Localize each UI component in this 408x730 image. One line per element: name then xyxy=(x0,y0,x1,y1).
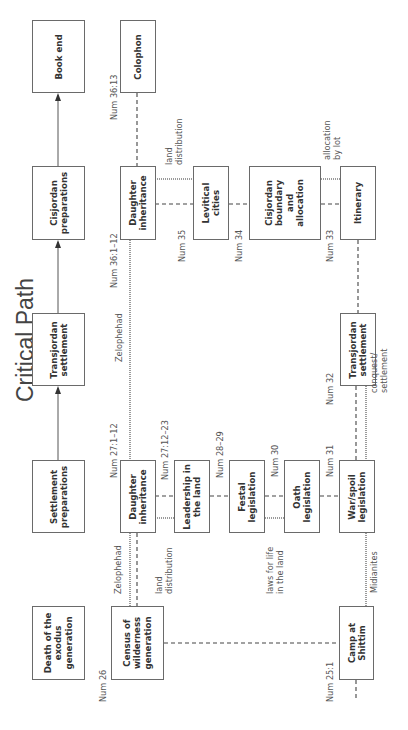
annotation-land-distribution-top: land distribution xyxy=(164,118,184,165)
node-daughter-inheritance-27: Daughter inheritance xyxy=(120,460,156,533)
node-camp-shittim: Camp at Shittim xyxy=(339,606,374,680)
node-oath-legislation: Oath legislation xyxy=(284,460,320,533)
node-itinerary: Itinerary xyxy=(340,166,376,240)
node-settlement-preparations: Settlement preparations xyxy=(32,460,85,533)
node-book-end: Book end xyxy=(32,20,85,93)
node-war-spoil-legislation: War/spoil legislation xyxy=(339,460,375,533)
ref-num-36-1-12: Num 36:1–12 xyxy=(109,233,119,288)
annotation-zelophehad-bottom: Zelophehad xyxy=(113,545,123,594)
node-cisjordan-boundary: Cisjordan boundary and allocation xyxy=(249,166,321,240)
annotation-laws-for-life: laws for life in the land xyxy=(265,547,285,594)
node-transjordan-settlement: Transjordan settlement xyxy=(32,313,85,386)
annotation-land-distribution-bottom: land distribution xyxy=(154,547,174,594)
ref-num-33: Num 33 xyxy=(325,230,335,262)
node-daughter-inheritance-36: Daughter inheritance xyxy=(120,166,156,240)
ref-num-31: Num 31 xyxy=(325,445,335,477)
ref-num-30: Num 30 xyxy=(270,445,280,477)
ref-num-34: Num 34 xyxy=(234,230,244,262)
node-cisjordan-preparations: Cisjordan preparations xyxy=(32,166,85,240)
node-census: Census of wilderness generation xyxy=(111,606,164,680)
ref-num-32: Num 32 xyxy=(325,373,335,405)
annotation-zelophehad-top: Zelophehad xyxy=(114,313,124,362)
node-leadership: Leadership in the land xyxy=(174,460,210,533)
ref-num-28-29: Num 28–29 xyxy=(215,431,225,478)
ref-num-25-1: Num 25:1 xyxy=(325,662,335,702)
node-death-exodus-generation: Death of the exodus generation xyxy=(32,606,85,680)
annotation-conquest-settlement: conquest/ settlement xyxy=(369,349,389,393)
node-colophon: Colophon xyxy=(120,20,156,93)
ref-num-27-12-23: Num 27:12–23 xyxy=(160,420,170,480)
ref-num-26: Num 26 xyxy=(98,670,108,702)
node-levitical-cities: Levitical cities xyxy=(193,166,229,240)
ref-num-35: Num 35 xyxy=(177,230,187,262)
annotation-allocation-by-lot: allocation by lot xyxy=(322,120,342,160)
ref-num-27-1-12: Num 27:1–12 xyxy=(109,423,119,478)
ref-num-36-13: Num 36:13 xyxy=(109,75,119,121)
node-festal-legislation: Festal legislation xyxy=(229,460,265,533)
annotation-midianites: Midianites xyxy=(369,551,379,593)
